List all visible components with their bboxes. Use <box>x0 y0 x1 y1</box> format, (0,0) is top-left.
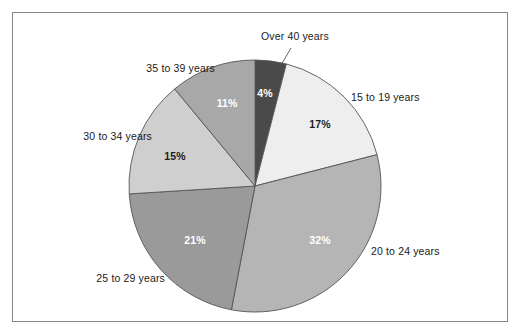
pie-chart: 4% 17% 32% 21% 15% 11% Over 40 years 15 … <box>0 0 522 334</box>
category-label-20-to-24-years: 20 to 24 years <box>371 245 440 257</box>
value-label-30-to-34-years: 15% <box>164 150 186 162</box>
category-label-over-40-years: Over 40 years <box>261 30 329 42</box>
value-label-35-to-39-years: 11% <box>217 97 238 109</box>
category-label-35-to-39-years: 35 to 39 years <box>146 62 215 74</box>
value-label-25-to-29-years: 21% <box>184 234 206 246</box>
category-label-30-to-34-years: 30 to 34 years <box>83 130 152 142</box>
category-label-25-to-29-years: 25 to 29 years <box>96 272 165 284</box>
value-label-20-to-24-years: 32% <box>309 234 331 246</box>
category-label-15-to-19-years: 15 to 19 years <box>351 91 420 103</box>
figure-canvas: 4% 17% 32% 21% 15% 11% Over 40 years 15 … <box>0 0 522 334</box>
value-label-over-40-years: 4% <box>257 87 273 99</box>
pie-slices <box>129 60 381 312</box>
value-label-15-to-19-years: 17% <box>309 118 331 130</box>
